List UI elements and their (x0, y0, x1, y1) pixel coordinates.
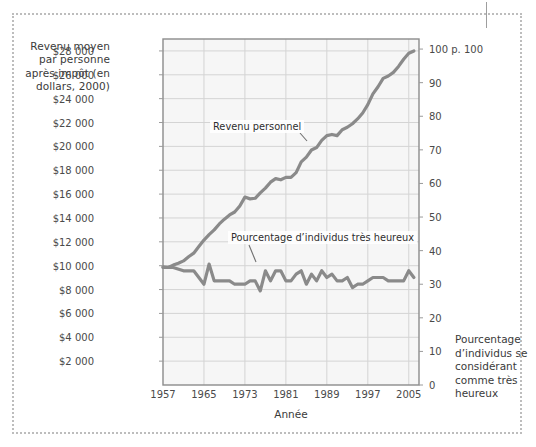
y-tick-label-left: $14 000 (0, 212, 94, 223)
y-tick-label-right: 50 (429, 212, 442, 223)
y-tick-label-left: $8 000 (0, 284, 94, 295)
x-tick-label: 1965 (191, 389, 216, 400)
y-tick-label-left: $2 000 (0, 356, 94, 367)
y-tick-label-right: 20 (429, 312, 442, 323)
y-tick-label-left: $18 000 (0, 165, 94, 176)
y-tick-label-left: $4 000 (0, 332, 94, 343)
annotation-happiness-line: Pourcentage d’individus très heureux (228, 231, 417, 244)
y-tick-label-left: $16 000 (0, 189, 94, 200)
chart-container: Revenu moyen par personne après impôt (e… (0, 0, 536, 447)
y-tick-label-left: $20 000 (0, 141, 94, 152)
x-tick-label: 1981 (273, 389, 298, 400)
y-tick-label-right: 0 (429, 380, 435, 391)
y-tick-label-left: $24 000 (0, 93, 94, 104)
y-tick-label-right: 10 (429, 346, 442, 357)
annotation-income-line: Revenu personnel (210, 120, 304, 133)
y-tick-label-right: 80 (429, 111, 442, 122)
y-tick-label-left: $10 000 (0, 260, 94, 271)
figure-root: Revenu moyen par personne après impôt (e… (0, 0, 536, 447)
x-tick-label: 1973 (232, 389, 257, 400)
y-tick-label-right: 90 (429, 77, 442, 88)
y-tick-label-left: $26 000 (0, 69, 94, 80)
y-tick-label-left: $12 000 (0, 236, 94, 247)
y-tick-label-right: 60 (429, 178, 442, 189)
y-tick-label-right: 40 (429, 245, 442, 256)
y-tick-label-right: 70 (429, 144, 442, 155)
y-tick-label-left: $28 000 (0, 45, 94, 56)
x-axis-title: Année (163, 408, 419, 420)
y-tick-label-right: 100 p. 100 (429, 44, 483, 55)
x-tick-label: 1989 (314, 389, 339, 400)
x-tick-label: 1957 (150, 389, 175, 400)
y-axis-right-title: Pourcentage d’individus se considérant c… (455, 333, 535, 401)
y-tick-label-right: 30 (429, 279, 442, 290)
x-tick-label: 2005 (396, 389, 421, 400)
plot-background (163, 39, 419, 385)
x-tick-label: 1997 (355, 389, 380, 400)
y-tick-label-left: $6 000 (0, 308, 94, 319)
y-tick-label-left: $22 000 (0, 117, 94, 128)
